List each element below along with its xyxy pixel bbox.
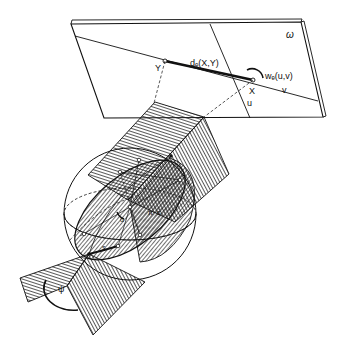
geometry-figure: ω Y X dₑ(X,Y) wₑ(u,v) u v s π−s α ψ <box>0 0 341 354</box>
label-arc-pi-minus-s: π−s <box>148 209 161 216</box>
label-dihedral-psi: ψ <box>58 284 64 294</box>
label-omega: ω <box>286 29 294 40</box>
label-dir-v: v <box>282 85 287 95</box>
label-point-x: X <box>249 86 255 96</box>
label-arc-s: s <box>102 244 106 251</box>
label-angle-alpha: α <box>120 216 124 223</box>
label-point-y: Y <box>155 63 161 73</box>
lower-wedge <box>20 254 145 335</box>
label-distance: dₑ(X,Y) <box>190 58 219 68</box>
label-angle-uv: wₑ(u,v) <box>264 71 293 81</box>
label-dir-u: u <box>247 98 252 108</box>
